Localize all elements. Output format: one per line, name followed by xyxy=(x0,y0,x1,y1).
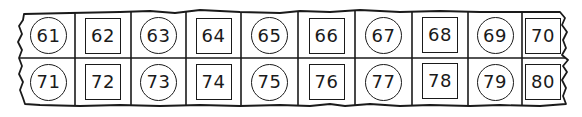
cell-79: 79 xyxy=(468,59,522,105)
number-label: 63 xyxy=(147,27,171,45)
cell-80: 80 xyxy=(522,59,564,105)
cell-64: 64 xyxy=(186,13,241,58)
cell-68: 68 xyxy=(412,12,468,57)
square-shape: 80 xyxy=(525,64,561,100)
circle-shape: 77 xyxy=(365,64,402,101)
cell-75: 75 xyxy=(241,59,298,105)
number-label: 72 xyxy=(91,73,115,91)
circle-shape: 67 xyxy=(365,17,402,54)
number-label: 66 xyxy=(315,27,339,45)
circle-shape: 75 xyxy=(251,64,288,101)
number-label: 67 xyxy=(372,27,396,45)
cell-61: 61 xyxy=(22,13,75,58)
number-label: 78 xyxy=(428,72,452,90)
number-label: 79 xyxy=(483,73,507,91)
number-label: 68 xyxy=(428,26,452,44)
cell-70: 70 xyxy=(522,13,564,58)
number-chart-strip: 61 62 63 64 65 66 67 68 69 70 71 72 73 7… xyxy=(0,0,582,117)
square-shape: 68 xyxy=(422,17,458,53)
cell-66: 66 xyxy=(298,13,355,58)
number-label: 74 xyxy=(202,73,226,91)
cell-63: 63 xyxy=(131,13,186,58)
circle-shape: 79 xyxy=(477,64,514,101)
circle-shape: 65 xyxy=(251,17,288,54)
square-shape: 78 xyxy=(422,63,458,99)
number-label: 61 xyxy=(37,27,61,45)
circle-shape: 71 xyxy=(30,64,67,101)
cell-62: 62 xyxy=(75,13,131,58)
number-label: 77 xyxy=(372,73,396,91)
cell-78: 78 xyxy=(412,58,468,104)
square-shape: 76 xyxy=(309,64,345,100)
circle-shape: 63 xyxy=(140,17,177,54)
square-shape: 66 xyxy=(309,18,345,54)
circle-shape: 61 xyxy=(30,17,67,54)
number-label: 69 xyxy=(483,27,507,45)
cell-67: 67 xyxy=(355,13,412,58)
square-shape: 62 xyxy=(85,18,121,54)
number-label: 71 xyxy=(37,73,61,91)
square-shape: 64 xyxy=(196,18,232,54)
cell-69: 69 xyxy=(468,13,522,58)
square-shape: 74 xyxy=(196,64,232,100)
cell-71: 71 xyxy=(22,59,75,105)
number-label: 75 xyxy=(258,73,282,91)
cell-73: 73 xyxy=(131,59,186,105)
circle-shape: 69 xyxy=(477,17,514,54)
number-label: 76 xyxy=(315,73,339,91)
number-label: 70 xyxy=(531,27,555,45)
circle-shape: 73 xyxy=(140,64,177,101)
square-shape: 70 xyxy=(525,18,561,54)
number-label: 64 xyxy=(202,27,226,45)
cell-65: 65 xyxy=(241,13,298,58)
number-label: 65 xyxy=(258,27,282,45)
cell-74: 74 xyxy=(186,59,241,105)
cell-76: 76 xyxy=(298,59,355,105)
cell-77: 77 xyxy=(355,59,412,105)
number-label: 80 xyxy=(531,73,555,91)
cell-72: 72 xyxy=(75,59,131,105)
square-shape: 72 xyxy=(85,64,121,100)
number-label: 62 xyxy=(91,27,115,45)
number-label: 73 xyxy=(147,73,171,91)
